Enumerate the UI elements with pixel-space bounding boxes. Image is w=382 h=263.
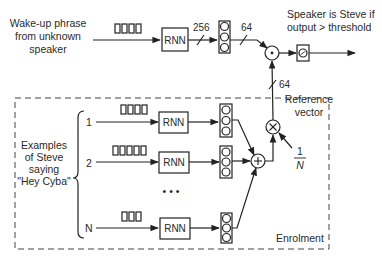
embedding-vector-icon [220,104,232,137]
speaker-verification-diagram: Wake-up phrase from unknown speaker RNN … [0,0,382,263]
dim-64-label: 64 [241,22,253,33]
input-frames-icon [113,146,146,155]
example-row-2: 2 RNN [86,146,250,178]
rnn-block-test: RNN [162,28,188,51]
sum-output-arrow [265,135,273,161]
svg-text:of Steve: of Steve [25,151,64,163]
svg-text:Examples: Examples [21,139,67,151]
example-row-n: N RNN [85,168,256,243]
svg-text:from unknown: from unknown [15,30,81,42]
svg-text:1: 1 [86,116,92,128]
svg-text:Speaker is Steve if: Speaker is Steve if [287,8,375,20]
svg-text:1: 1 [297,145,303,157]
threshold-icon [297,45,309,61]
examples-label: Examples of Steve saying "Hey Cyba" [17,139,71,187]
reference-arrow [272,61,273,120]
svg-text:RNN: RNN [163,157,185,168]
svg-text:output > threshold: output > threshold [287,21,372,33]
svg-text:Reference: Reference [285,93,334,105]
embedding-vector-icon [221,213,232,243]
input-label: Wake-up phrase from unknown speaker [10,17,87,55]
input-frames-icon [115,24,141,33]
dim-64-ref-label: 64 [279,79,291,90]
svg-text:"Hey Cyba": "Hey Cyba" [17,175,71,187]
svg-text:RNN: RNN [164,35,186,46]
input-frames-icon [121,105,147,114]
embedding-vector-icon [220,146,232,178]
svg-text:speaker: speaker [29,43,67,55]
input-frames-icon [122,212,141,221]
reference-vector-label: Reference vector [285,93,334,118]
dim-256-label: 256 [193,22,210,33]
multiply-icon [266,120,280,134]
embedding-vector-icon [219,21,230,53]
sum-icon [251,154,265,168]
svg-text:RNN: RNN [163,117,185,128]
svg-text:vector: vector [295,106,324,118]
dot-product-icon [265,46,279,60]
svg-text:saying: saying [29,163,60,175]
svg-text:N: N [85,222,93,234]
brace-icon [73,111,84,238]
ellipsis: • • • [163,185,180,197]
scale-arrow [279,133,292,148]
svg-text:N: N [296,159,304,171]
svg-text:Wake-up phrase: Wake-up phrase [10,17,87,29]
embedding-arrow [230,40,267,48]
svg-text:RNN: RNN [164,223,186,234]
svg-text:2: 2 [86,157,92,169]
output-label: Speaker is Steve if output > threshold [287,8,375,33]
scale-factor-label: 1 N [294,145,306,171]
enrolment-label: Enrolment [276,232,324,244]
